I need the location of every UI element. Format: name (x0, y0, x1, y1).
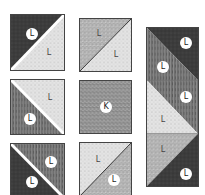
tile-r1c1: L L (10, 14, 65, 71)
fabric-label: L (24, 113, 36, 125)
tile-r1c2: L L (79, 18, 132, 72)
fabric-label: L (108, 174, 120, 186)
strip-col3: L L L L L L (146, 27, 199, 187)
fabric-label: K (100, 101, 112, 113)
fabric-label: L (157, 144, 169, 156)
half-square-triangle (80, 19, 131, 71)
fabric-label: L (157, 61, 169, 73)
fabric-label: L (26, 28, 38, 40)
half-square-triangle (11, 80, 64, 134)
fabric-label: L (180, 168, 192, 180)
tile-r2c2: K (79, 80, 132, 134)
fabric-label: L (26, 176, 38, 188)
half-square-triangle (11, 144, 64, 195)
fabric-label: L (157, 114, 169, 126)
fabric-label: L (110, 49, 122, 61)
tile-r2c1: L L (10, 79, 65, 135)
fabric-label: L (45, 156, 57, 168)
half-square-triangle (80, 143, 131, 195)
fabric-label: L (43, 47, 55, 59)
half-square-triangle (11, 15, 64, 70)
tile-r3c1: L L (10, 143, 65, 195)
fabric-label: L (92, 154, 104, 166)
flying-geese-strip (147, 28, 198, 186)
fabric-label: L (44, 92, 56, 104)
fabric-label: L (93, 28, 105, 40)
fabric-label: L (180, 37, 192, 49)
tile-r3c2: L L (79, 142, 132, 195)
fabric-label: L (180, 91, 192, 103)
